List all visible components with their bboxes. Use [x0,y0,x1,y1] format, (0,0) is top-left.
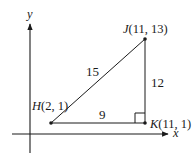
point-K [143,121,147,125]
label-H: H(2, 1) [31,99,68,113]
coordinate-diagram: y x H(2, 1) J(11, 13) K(11, 1) 15 12 9 [0,0,196,156]
label-J: J(11, 13) [123,22,168,36]
side-HJ-length: 15 [86,64,99,79]
side-HK-length: 9 [99,107,106,122]
side-JK-length: 12 [151,75,164,90]
label-K-coords: (11, 1) [158,117,191,131]
y-axis-label: y [25,7,33,21]
point-H [49,121,53,125]
right-angle-marker [135,113,145,123]
label-K: K(11, 1) [149,117,191,131]
label-H-coords: (2, 1) [41,99,68,113]
label-J-coords: (11, 13) [129,22,168,36]
point-J [143,37,147,41]
